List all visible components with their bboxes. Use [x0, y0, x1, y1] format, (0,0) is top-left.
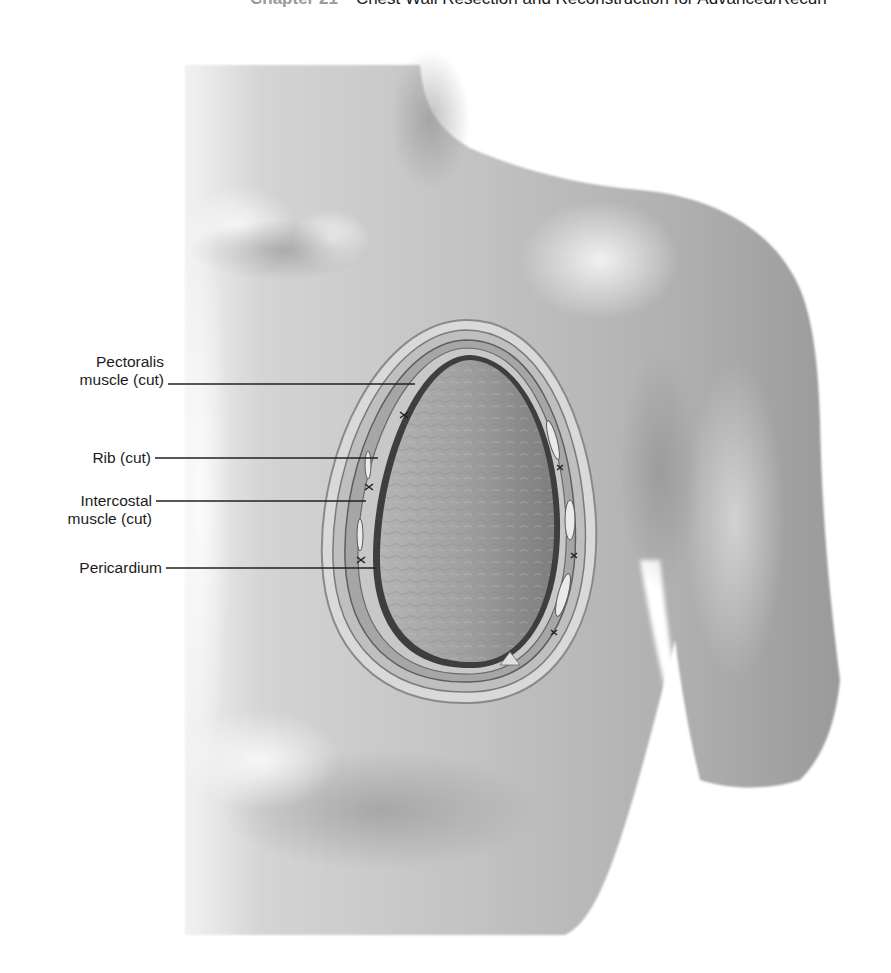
chest-wall-illustration	[0, 0, 891, 973]
label-line: Pericardium	[79, 559, 162, 577]
label-pectoralis-muscle: Pectoralis muscle (cut)	[80, 353, 164, 389]
label-line: Rib (cut)	[92, 449, 151, 467]
label-line: Pectoralis	[80, 353, 164, 371]
label-line: Intercostal	[68, 492, 152, 510]
label-pericardium: Pericardium	[79, 559, 162, 577]
label-line: muscle (cut)	[80, 371, 164, 389]
label-line: muscle (cut)	[68, 510, 152, 528]
label-intercostal-muscle: Intercostal muscle (cut)	[68, 492, 152, 528]
label-rib: Rib (cut)	[92, 449, 151, 467]
